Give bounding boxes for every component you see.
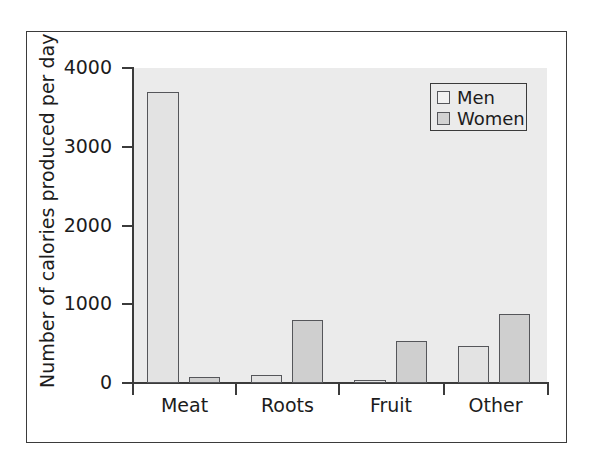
y-tick-label-group: 4000 3000 2000 1000 0 xyxy=(52,0,112,468)
x-tick-2 xyxy=(338,383,340,395)
x-tick-4 xyxy=(547,383,549,395)
y-tick-3000 xyxy=(122,146,133,148)
figure: 4000 3000 2000 1000 0 Number of calories… xyxy=(0,0,592,468)
x-tick-1 xyxy=(235,383,237,395)
bar-meat-women xyxy=(189,377,220,383)
y-tick-label-0: 0 xyxy=(52,373,112,392)
y-tick-label-2000: 2000 xyxy=(52,216,112,235)
legend-swatch-women-icon xyxy=(437,112,450,125)
y-tick-label-3000: 3000 xyxy=(52,137,112,156)
y-tick-4000 xyxy=(122,67,133,69)
bar-meat-men xyxy=(147,92,178,383)
x-tick-3 xyxy=(443,383,445,395)
bar-roots-women xyxy=(292,320,323,383)
legend-swatch-men-icon xyxy=(437,91,450,104)
y-axis-title: Number of calories produced per day xyxy=(36,58,58,388)
x-tick-label-other: Other xyxy=(444,396,547,415)
bar-fruit-women xyxy=(396,341,427,383)
legend-label-women: Women xyxy=(457,110,525,128)
y-tick-label-4000: 4000 xyxy=(52,58,112,77)
bar-other-women xyxy=(499,314,530,383)
x-tick-label-fruit: Fruit xyxy=(339,396,443,415)
bar-fruit-men xyxy=(354,380,385,383)
x-tick-0 xyxy=(132,383,134,395)
y-tick-2000 xyxy=(122,225,133,227)
y-tick-1000 xyxy=(122,303,133,305)
legend-label-men: Men xyxy=(457,89,495,107)
legend-item-men: Men xyxy=(437,87,526,108)
y-tick-label-1000: 1000 xyxy=(52,294,112,313)
legend-item-women: Women xyxy=(437,108,526,129)
bar-roots-men xyxy=(251,375,282,383)
x-tick-label-roots: Roots xyxy=(236,396,339,415)
bar-other-men xyxy=(458,346,489,383)
legend: Men Women xyxy=(430,83,527,131)
x-tick-label-meat: Meat xyxy=(133,396,236,415)
